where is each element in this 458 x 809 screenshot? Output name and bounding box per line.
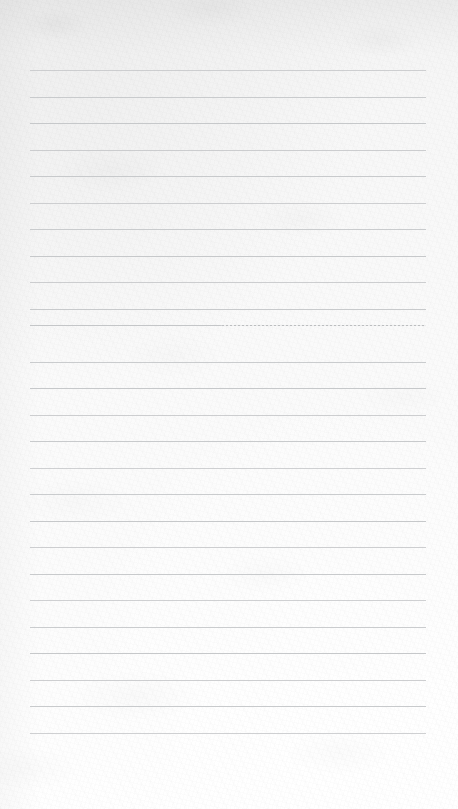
ruled-line [30,415,426,416]
ruled-line [30,309,426,310]
ruled-line [30,706,426,707]
ruled-line [30,574,426,575]
ruled-line [30,468,426,469]
ruled-line [30,521,426,522]
ruled-line [30,282,426,283]
ruled-line [30,733,426,734]
ruled-line [30,388,426,389]
ruled-line [30,494,426,495]
ruled-line [30,325,426,326]
ruled-lines-group [0,0,458,809]
ruled-line [30,627,426,628]
ruled-line [30,653,426,654]
ruled-line [30,97,426,98]
ruled-line [30,150,426,151]
paper-page [0,0,458,809]
ruled-line [30,680,426,681]
ruled-line [30,203,426,204]
ruled-line [30,441,426,442]
ruled-line [30,176,426,177]
ruled-line [30,70,426,71]
ruled-line [30,362,426,363]
ruled-line [30,547,426,548]
ruled-line [30,600,426,601]
ruled-line [30,256,426,257]
ruled-line [30,229,426,230]
ruled-line [30,123,426,124]
